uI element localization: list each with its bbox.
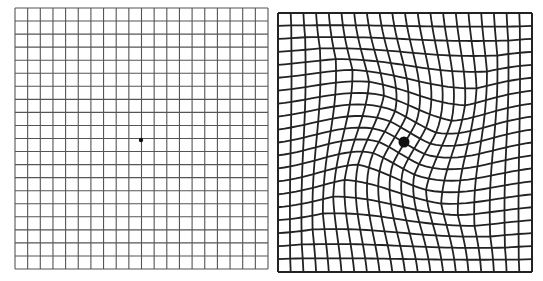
grid-line-h xyxy=(278,229,532,237)
grid-line-h xyxy=(278,37,532,41)
fixation-dot xyxy=(139,138,143,142)
grid-line-h xyxy=(278,244,532,248)
grid-line-h xyxy=(278,48,532,56)
grid-line-v xyxy=(301,13,305,272)
grid-line-v xyxy=(490,13,498,272)
amsler-grid-figure xyxy=(0,0,543,281)
normal-amsler-grid xyxy=(15,8,268,269)
distorted-amsler-grid xyxy=(278,13,532,272)
grid-line-v xyxy=(504,13,508,272)
fixation-dot xyxy=(399,137,410,148)
grid-line-v xyxy=(312,13,320,272)
